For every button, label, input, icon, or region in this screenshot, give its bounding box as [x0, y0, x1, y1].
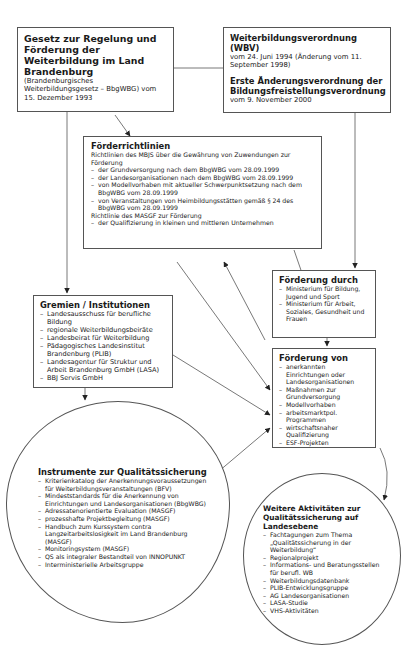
list-item: Informations- und Beratungsstellen für b…	[263, 561, 385, 576]
wbv-text: vom 24. Juni 1994 (Änderung vom 11. Sept…	[230, 53, 384, 70]
list-item: AG Landesorganisationen	[263, 592, 385, 600]
funding-by-title: Förderung durch	[279, 275, 369, 285]
list-item: der Landesorganisationen nach dem BbgWBG…	[91, 174, 314, 182]
amendment-title: Erste Änderungsverordnung der Bildungsfr…	[230, 76, 384, 96]
guidelines-box: Förderrichtlinien Richtlinien des MBJS ü…	[83, 136, 322, 249]
law-title: Gesetz zur Regelung und Förderung der We…	[24, 33, 167, 77]
list-item: Modellvorhaben	[279, 401, 369, 409]
list-item: Landesbeirat für Weiterbildung	[40, 334, 166, 342]
guidelines-intro-mbjs: Richtlinien des MBJS über die Gewährung …	[91, 151, 314, 166]
guidelines-list-mbjs: der Grundversorgung nach dem BbgWBG vom …	[91, 166, 314, 212]
funding-of-list: anerkannten Einrichtungen oder Landesorg…	[279, 363, 369, 447]
list-item: Monitoringsystem (MASGF)	[38, 545, 208, 553]
list-item: VHS-Aktivitäten	[263, 607, 385, 615]
list-item: Landesagentur für Struktur und Arbeit Br…	[40, 358, 166, 374]
wbv-title: Weiterbildungsverordnung (WBV)	[230, 33, 384, 53]
funding-by-box: Förderung durch Ministerium für Bildung,…	[272, 270, 376, 338]
list-item: von Veranstaltungen von Heimbildungsstät…	[91, 197, 314, 212]
list-item: anerkannten Einrichtungen oder Landesorg…	[279, 363, 369, 386]
law-subtitle: (Brandenburgisches Weiterbildungsgesetz …	[24, 77, 167, 102]
activities-list: Fachtagungen zum Thema „Qualitätssicheru…	[263, 531, 385, 615]
list-item: PLIB-Entwicklungsgruppe	[263, 584, 385, 592]
list-item: QS als integraler Bestandteil von INNOPU…	[38, 553, 208, 561]
list-item: regionale Weiterbildungsbeiräte	[40, 326, 166, 334]
list-item: der Grundversorgung nach dem BbgWBG vom …	[91, 166, 314, 174]
instruments-list: Kriterienkatalog der Anerkennungsvorauss…	[38, 477, 208, 568]
list-item: Regionalprojekt	[263, 554, 385, 562]
guidelines-list-masgf: der Qualifizierung in kleinen und mittle…	[91, 219, 314, 227]
list-item: ESF-Projekten	[279, 439, 369, 447]
bodies-list: Landesausschuss für berufliche Bildung r…	[40, 310, 166, 382]
activities-title: Weitere Aktivitäten zur Qualitätssicheru…	[263, 504, 385, 531]
list-item: Maßnahmen zur Grundversorgung	[279, 386, 369, 401]
list-item: Adressatenorientierte Evaluation (MASGF)	[38, 507, 208, 515]
list-item: von Modellvorhaben mit aktueller Schwerp…	[91, 181, 314, 196]
list-item: der Qualifizierung in kleinen und mittle…	[91, 219, 314, 227]
instruments-title: Instrumente zur Qualitätssicherung	[38, 467, 208, 477]
list-item: Ministerium für Bildung, Jugend und Spor…	[279, 285, 369, 300]
bodies-title: Gremien / Institutionen	[40, 300, 166, 310]
list-item: Weiterbildungsdatenbank	[263, 577, 385, 585]
regulations-box: Weiterbildungsverordnung (WBV) vom 24. J…	[223, 27, 391, 113]
list-item: Pädagogisches Landesinstitut Brandenburg…	[40, 342, 166, 358]
list-item: LASA-Studie	[263, 599, 385, 607]
funding-by-list: Ministerium für Bildung, Jugend und Spor…	[279, 285, 369, 323]
list-item: Landesausschuss für berufliche Bildung	[40, 310, 166, 326]
list-item: prozesshafte Projektbegleitung (MASGF)	[38, 515, 208, 523]
law-box: Gesetz zur Regelung und Förderung der We…	[17, 27, 174, 112]
bodies-box: Gremien / Institutionen Landesausschuss …	[33, 295, 173, 388]
list-item: Ministerium für Arbeit, Soziales, Gesund…	[279, 300, 369, 323]
instruments-content: Instrumente zur Qualitätssicherung Krite…	[38, 467, 208, 568]
list-item: Interministerielle Arbeitsgruppe	[38, 561, 208, 569]
list-item: wirtschaftsnaher Qualifizierung	[279, 424, 369, 439]
funding-of-box: Förderung von anerkannten Einrichtungen …	[272, 348, 376, 448]
list-item: Fachtagungen zum Thema „Qualitätssicheru…	[263, 531, 385, 554]
activities-content: Weitere Aktivitäten zur Qualitätssicheru…	[263, 504, 385, 615]
list-item: arbeitsmarktpol. Programmen	[279, 409, 369, 424]
guidelines-intro-masgf: Richtlinie des MASGF zur Förderung	[91, 212, 314, 220]
list-item: Kriterienkatalog der Anerkennungsvorauss…	[38, 477, 208, 492]
guidelines-title: Förderrichtlinien	[91, 141, 314, 151]
amendment-text: vom 9. November 2000	[230, 96, 384, 104]
funding-of-title: Förderung von	[279, 353, 369, 363]
list-item: Handbuch zum Kurssystem contra Langzeita…	[38, 523, 208, 546]
list-item: Mindeststandards für die Anerkennung von…	[38, 492, 208, 507]
list-item: BBJ Servis GmbH	[40, 374, 166, 382]
